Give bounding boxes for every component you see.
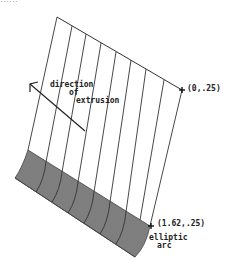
- point-markers: [148, 87, 185, 229]
- top-point-label: (0,.25): [187, 85, 221, 93]
- direction-label-3: extrusion: [76, 97, 119, 105]
- extruded-surface: [15, 150, 150, 257]
- bottom-point-label: (1.62,.25): [157, 220, 205, 228]
- curve-label-2: arc: [157, 242, 171, 250]
